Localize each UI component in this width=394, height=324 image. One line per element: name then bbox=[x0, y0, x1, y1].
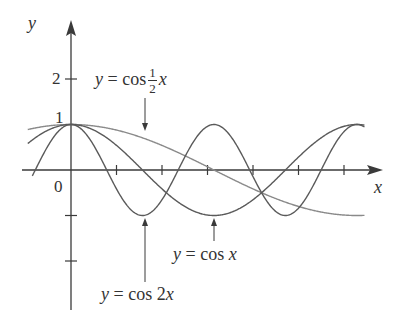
arrow-cos-half-x-head-icon bbox=[142, 123, 148, 131]
label-eq-cos: = cos bbox=[108, 69, 147, 89]
y-tick-label-2: 2 bbox=[52, 70, 61, 87]
cosine-graph bbox=[0, 0, 394, 324]
label-cos-2x: y = cos 2x bbox=[101, 285, 174, 303]
label-y: y bbox=[95, 69, 103, 89]
origin-label: 0 bbox=[54, 178, 63, 195]
arrow-cos-2x-head-icon bbox=[142, 218, 148, 226]
y-axis-label: y bbox=[28, 14, 36, 32]
y-tick-label-1: 1 bbox=[55, 109, 64, 126]
arrow-cos-x-head-icon bbox=[211, 218, 217, 226]
label-cos-half-x: y = cos12x bbox=[95, 66, 167, 95]
fraction-one-half: 12 bbox=[148, 66, 157, 95]
x-axis-label: x bbox=[374, 178, 382, 196]
label-cos-x: y = cos x bbox=[173, 245, 237, 263]
